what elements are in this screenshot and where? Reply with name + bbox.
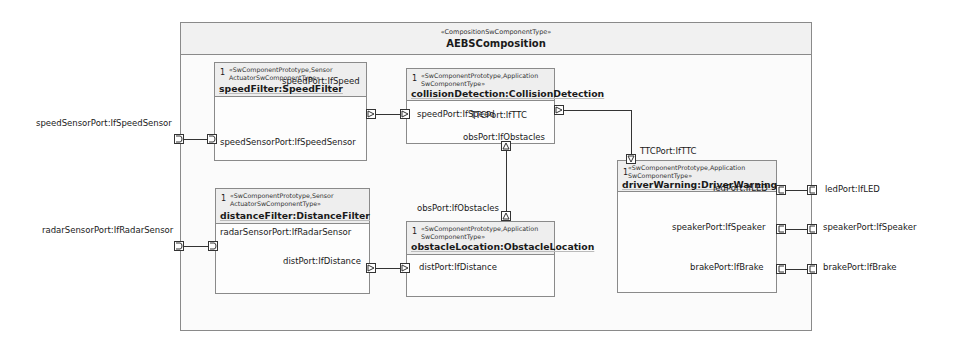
connector-radar-sensor[interactable] xyxy=(184,246,209,247)
outer-brake-port-label: brakePort:IfBrake xyxy=(823,262,897,272)
composition-stereotype: «CompositionSwComponentType» xyxy=(181,28,811,37)
speed-filter-speed-port-label: speedPort:IfSpeed xyxy=(282,76,360,86)
multiplicity: 1 xyxy=(412,227,417,236)
component-obstacle-location[interactable]: 1 «SwComponentPrototype,Application SwCo… xyxy=(406,221,555,297)
connector-speaker[interactable] xyxy=(786,229,807,230)
require-port-icon[interactable] xyxy=(207,134,217,144)
connector-speed-sensor[interactable] xyxy=(184,139,209,140)
client-port-icon[interactable] xyxy=(807,264,817,274)
collision-detection-name: collisionDetection:CollisionDetection xyxy=(411,88,604,99)
outer-speed-sensor-port-label: speedSensorPort:IfSpeedSensor xyxy=(36,118,172,128)
composition-title: AEBSComposition xyxy=(181,37,811,50)
collision-detection-stereotype: «SwComponentPrototype,Application SwComp… xyxy=(421,72,538,88)
obstacle-dist-port-label: distPort:IfDistance xyxy=(419,262,497,272)
connector-ttc-v[interactable] xyxy=(631,110,632,155)
obstacle-obs-port-label: obsPort:IfObstacles xyxy=(417,203,499,213)
client-port-icon[interactable] xyxy=(776,185,786,195)
multiplicity: 1 xyxy=(221,194,226,203)
provide-port-icon[interactable] xyxy=(400,109,410,119)
driver-warning-stereotype: «SwComponentPrototype,Application SwComp… xyxy=(628,164,745,180)
collision-detection-header: 1 «SwComponentPrototype,Application SwCo… xyxy=(407,69,554,101)
outer-led-port-label: ledPort:IfLED xyxy=(825,184,880,194)
connector-ttc-h2[interactable] xyxy=(600,110,632,111)
distance-filter-header: 1 «SwComponentPrototype,Sensor ActuatorS… xyxy=(216,189,369,224)
outer-speaker-port-label: speakerPort:IfSpeaker xyxy=(823,222,916,232)
speed-filter-sensor-port-label: speedSensorPort:IfSpeedSensor xyxy=(220,137,356,147)
client-port-icon[interactable] xyxy=(776,264,786,274)
provide-port-icon[interactable] xyxy=(501,141,511,151)
component-distance-filter[interactable]: 1 «SwComponentPrototype,Sensor ActuatorS… xyxy=(215,188,370,294)
outer-radar-sensor-port-label: radarSensorPort:IfRadarSensor xyxy=(42,225,173,235)
distance-filter-name: distanceFilter:DistanceFilter xyxy=(220,210,370,221)
require-port-icon[interactable] xyxy=(174,134,184,144)
connector-obstacles[interactable] xyxy=(506,150,507,212)
driver-speaker-port-label: speakerPort:IfSpeaker xyxy=(672,222,765,232)
provide-port-icon[interactable] xyxy=(554,105,564,115)
connector-brake[interactable] xyxy=(786,269,807,270)
driver-brake-port-label: brakePort:IfBrake xyxy=(690,262,764,272)
multiplicity: 1 xyxy=(220,68,225,77)
distance-filter-stereotype: «SwComponentPrototype,Sensor ActuatorSwC… xyxy=(230,192,334,208)
provide-port-icon[interactable] xyxy=(400,263,410,273)
collision-ttc-port-label: TTCPort:IfTTC xyxy=(470,110,527,120)
provide-port-icon[interactable] xyxy=(626,154,636,164)
distance-filter-dist-port-label: distPort:IfDistance xyxy=(283,256,361,266)
obstacle-location-name: obstacleLocation:ObstacleLocation xyxy=(411,241,594,252)
distance-filter-radar-port-label: radarSensorPort:IfRadarSensor xyxy=(220,227,351,237)
client-port-icon[interactable] xyxy=(807,185,817,195)
client-port-icon[interactable] xyxy=(807,224,817,234)
require-port-icon[interactable] xyxy=(208,241,218,251)
provide-port-icon[interactable] xyxy=(366,263,376,273)
connector-led[interactable] xyxy=(786,190,807,191)
obstacle-location-header: 1 «SwComponentPrototype,Application SwCo… xyxy=(407,222,554,255)
connector-ttc-h[interactable] xyxy=(564,110,601,111)
multiplicity: 1 xyxy=(412,74,417,83)
connector-speed[interactable] xyxy=(376,114,400,115)
client-port-icon[interactable] xyxy=(776,224,786,234)
driver-ttc-port-label: TTCPort:IfTTC xyxy=(640,146,697,156)
composition-header: «CompositionSwComponentType» AEBSComposi… xyxy=(181,23,811,55)
provide-port-icon[interactable] xyxy=(366,109,376,119)
connector-distance[interactable] xyxy=(376,268,400,269)
driver-led-port-label: ledPort:IfLED xyxy=(713,183,768,193)
obstacle-location-stereotype: «SwComponentPrototype,Application SwComp… xyxy=(421,225,538,241)
provide-port-icon[interactable] xyxy=(501,211,511,221)
require-port-icon[interactable] xyxy=(174,241,184,251)
